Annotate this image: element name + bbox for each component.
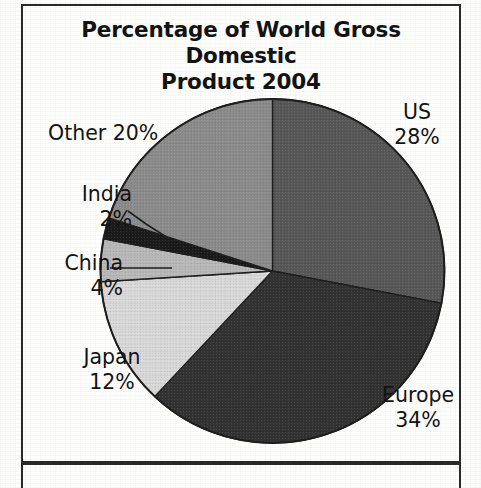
pie-label-japan: Japan 12% xyxy=(66,345,158,395)
pie-chart: Other 20% India 2% China 4% Japan 12% US… xyxy=(0,0,481,488)
pie-label-us: US 28% xyxy=(385,100,449,150)
pie-label-japan-name: Japan xyxy=(83,345,140,369)
pie-label-japan-pct: 12% xyxy=(66,370,158,395)
pie-label-china-pct: 4% xyxy=(23,276,123,301)
pie-label-other: Other 20% xyxy=(48,121,158,146)
pie-label-india-name: India xyxy=(82,182,132,206)
pie-label-us-name: US xyxy=(403,100,431,124)
pie-label-india-pct: 2% xyxy=(40,207,132,232)
pie-label-europe-name: Europe xyxy=(382,383,454,407)
pie-label-india: India 2% xyxy=(40,182,132,232)
pie-label-us-pct: 28% xyxy=(385,125,449,150)
pie-label-europe: Europe 34% xyxy=(368,383,468,433)
pie-label-other-text: Other 20% xyxy=(48,121,158,145)
pie-label-europe-pct: 34% xyxy=(368,408,468,433)
chart-page: Percentage of World Gross Domestic Produ… xyxy=(0,0,481,488)
pie-label-china: China 4% xyxy=(23,251,123,301)
pie-label-china-name: China xyxy=(64,251,123,275)
